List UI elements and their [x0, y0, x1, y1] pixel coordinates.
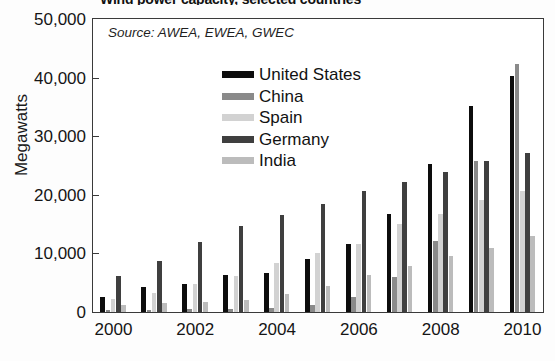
bar: [392, 277, 397, 312]
bar: [141, 287, 146, 312]
bar: [116, 276, 121, 312]
y-tick-label: 0: [0, 304, 86, 321]
y-tick-label: 10,000: [0, 245, 86, 262]
wind-capacity-bar-chart: Wind power capacity, selected countries …: [0, 0, 555, 361]
bar: [510, 76, 515, 312]
bar: [198, 242, 203, 312]
bar: [280, 215, 285, 312]
bar: [489, 248, 494, 312]
bar: [157, 261, 162, 312]
bar: [182, 284, 187, 312]
y-tick-label: 40,000: [0, 69, 86, 86]
bar: [433, 241, 438, 312]
bar: [100, 297, 105, 312]
bar: [285, 294, 290, 312]
bar: [449, 256, 454, 312]
bar: [520, 191, 525, 312]
bar: [111, 299, 116, 312]
bar: [269, 308, 274, 312]
bar: [234, 276, 239, 312]
y-tick-label: 50,000: [0, 11, 86, 28]
bar: [351, 297, 356, 312]
bar: [223, 275, 228, 313]
bars-layer: [93, 19, 543, 312]
x-tick-label: 2008: [422, 320, 460, 340]
y-tick-label: 20,000: [0, 186, 86, 203]
bar: [193, 284, 198, 312]
bar: [428, 164, 433, 312]
y-tick-label: 30,000: [0, 128, 86, 145]
bar: [147, 310, 152, 312]
x-tick-label: 2002: [176, 320, 214, 340]
bar: [305, 259, 310, 312]
bar: [443, 172, 448, 312]
x-tick-label: 2000: [95, 320, 133, 340]
bar: [367, 275, 372, 312]
page-title: Wind power capacity, selected countries: [100, 0, 520, 5]
bar: [356, 244, 361, 312]
bar: [408, 266, 413, 312]
bar: [397, 224, 402, 312]
bar: [402, 182, 407, 312]
bar: [387, 214, 392, 312]
bar: [162, 303, 167, 312]
bar: [479, 200, 484, 312]
bar: [438, 214, 443, 312]
bar: [187, 309, 192, 312]
bar: [244, 300, 249, 312]
x-tick-label: 2004: [258, 320, 296, 340]
bar: [321, 204, 326, 312]
x-tick-label: 2010: [504, 320, 542, 340]
bar: [326, 286, 331, 312]
bar: [121, 305, 126, 312]
bar: [484, 161, 489, 312]
bar: [310, 305, 315, 312]
bar: [362, 191, 367, 312]
bar: [315, 253, 320, 312]
bar: [152, 293, 157, 312]
bar: [264, 273, 269, 312]
bar: [530, 236, 535, 312]
bar: [474, 161, 479, 312]
bar: [203, 302, 208, 312]
bar: [469, 106, 474, 312]
bar: [106, 310, 111, 312]
bar: [228, 309, 233, 312]
bar: [525, 153, 530, 312]
bar: [515, 64, 520, 312]
bar: [274, 263, 279, 312]
x-tick-label: 2006: [340, 320, 378, 340]
bar: [346, 244, 351, 312]
bar: [239, 226, 244, 312]
